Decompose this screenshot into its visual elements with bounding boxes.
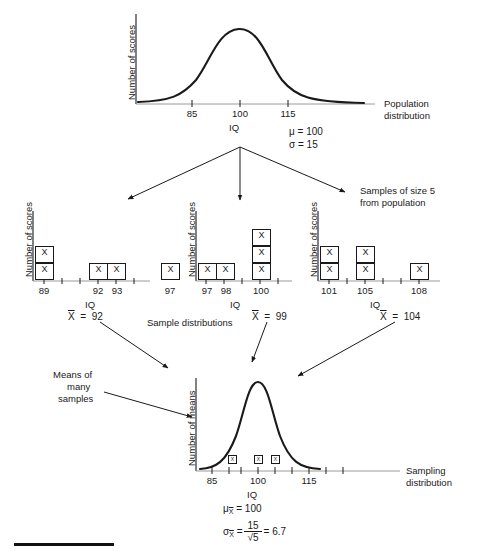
sample-1-tick-97: 97 (155, 285, 185, 296)
sampling-mean-marker: X (228, 455, 237, 464)
footer-rule (14, 543, 114, 546)
sample-1-cell: X (35, 263, 54, 280)
samples-note-line2: from population (360, 197, 425, 209)
sample-2-xlabel: IQ (230, 299, 240, 311)
sample-3-tick-101: 101 (314, 285, 344, 296)
sample-2-cell: X (252, 229, 271, 246)
sample-1-tick-89: 89 (29, 285, 59, 296)
sampling-mean-marker: X (271, 455, 280, 464)
sampling-tick-85: 85 (197, 475, 227, 486)
means-note-line2: many (67, 381, 90, 393)
sample-3-cell: X (356, 263, 375, 280)
sample-1-cell: X (107, 263, 126, 280)
sigma-subscript: X (229, 531, 234, 538)
sample-3-cell: X (356, 246, 375, 263)
population-mu: μ = 100 (289, 126, 323, 137)
sampling-tick-100: 100 (243, 475, 273, 486)
sampling-xlabel: IQ (247, 489, 257, 501)
figure-sampling-distribution: Number of scores 85 100 115 IQ Populatio… (0, 0, 483, 555)
sample-1-tick-93: 93 (102, 285, 132, 296)
population-curve (138, 29, 364, 103)
sample-1-cell: X (35, 246, 54, 263)
arrows-samples-to-sampling (100, 322, 395, 417)
population-tick-85: 85 (177, 108, 207, 119)
sample-1-ylabel: Number of scores (23, 202, 34, 277)
sample-2-mean: XX = 99 = 99 (252, 311, 287, 322)
sampling-distribution-plot (196, 378, 400, 474)
sigma-denominator: √5 (244, 532, 261, 544)
sample-3-tick-105: 105 (350, 285, 380, 296)
population-tick-115: 115 (273, 108, 303, 119)
sampling-mu-formula: μX = 100 (223, 503, 262, 515)
sample-2-ylabel: Number of scores (186, 202, 197, 277)
population-xlabel: IQ (229, 122, 239, 134)
sampling-tick-115: 115 (294, 475, 324, 486)
sigma-numerator: 15 (244, 520, 261, 532)
sample-2-tick-98: 98 (211, 285, 241, 296)
sample-3-cell: X (320, 246, 339, 263)
sample-1-mean: XX = 92 = 92 (68, 311, 103, 322)
means-note-line3: samples (58, 393, 93, 405)
sampling-mean-marker: X (254, 455, 263, 464)
population-tick-100: 100 (225, 108, 255, 119)
sample-2-cell: X (252, 263, 271, 280)
sample-2-cell: X (216, 263, 235, 280)
sigma-result: = 6.7 (264, 526, 287, 537)
mu-subscript: X (229, 508, 234, 515)
samples-caption: Sample distributions (147, 317, 233, 329)
sampling-sigma-formula: σX = 15 √5 = 6.7 (223, 520, 286, 544)
sample-1-xlabel: IQ (85, 299, 95, 311)
sampling-caption-line2: distribution (406, 477, 452, 489)
sample-2-tick-100: 100 (246, 285, 276, 296)
sample-3-cell: X (320, 263, 339, 280)
sample-3-xlabel: IQ (370, 299, 380, 311)
sample-3-ylabel: Number of scores (308, 202, 319, 277)
means-note-line1: Means of (53, 369, 92, 381)
population-caption-line1: Population (384, 98, 429, 110)
sigma-equals: = (237, 526, 243, 537)
sample-2-cell: X (252, 246, 271, 263)
sampling-ylabel: Number of means (186, 390, 197, 466)
sample-1-cell: X (89, 263, 108, 280)
sample-3-mean: XX = 104 = 104 (380, 311, 420, 322)
sample-3-tick-108: 108 (404, 285, 434, 296)
sampling-caption-line1: Sampling (406, 465, 446, 477)
mu-value: = 100 (236, 503, 261, 514)
sample-3-cell: X (410, 263, 429, 280)
samples-note-line1: Samples of size 5 (360, 185, 435, 197)
population-ylabel: Number of scores (126, 25, 137, 100)
population-sigma: σ = 15 (289, 139, 318, 150)
sample-2-cell: X (198, 263, 217, 280)
sample-1-cell: X (161, 263, 180, 280)
population-caption-line2: distribution (384, 110, 430, 122)
arrows-population-to-samples (128, 147, 345, 200)
population-distribution-plot (136, 14, 375, 107)
